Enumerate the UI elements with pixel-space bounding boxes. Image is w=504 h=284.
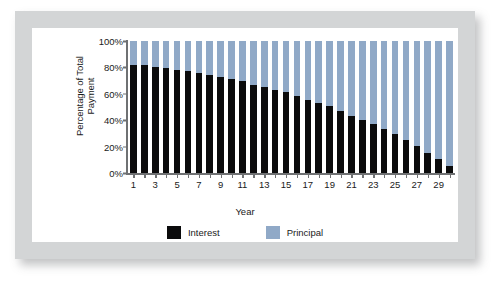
- bar-segment-interest: [217, 77, 224, 173]
- bar-segment-interest: [174, 70, 181, 173]
- bar-stack: [206, 41, 213, 173]
- y-tick-label: 0%: [89, 168, 123, 179]
- bar-segment-interest: [294, 96, 301, 173]
- bar-segment-interest: [424, 153, 431, 173]
- x-tick-label: 15: [281, 179, 292, 190]
- bar-stack: [250, 41, 257, 173]
- x-tick-mark: [406, 173, 407, 178]
- chart-card: Percentage of Total Payment 100%80%60%40…: [32, 28, 458, 242]
- bar-stack: [424, 41, 431, 173]
- bar-segment-interest: [152, 67, 159, 173]
- bar-segment-interest: [381, 129, 388, 173]
- bar-stack: [141, 41, 148, 173]
- x-tick-mark: [199, 173, 200, 178]
- bar-stack: [261, 41, 268, 173]
- x-tick-label: 13: [259, 179, 270, 190]
- bar-segment-interest: [283, 92, 290, 173]
- x-tick-mark: [286, 173, 287, 178]
- x-tick-mark: [297, 173, 298, 178]
- y-tick-mark: [123, 93, 128, 95]
- bar-segment-interest: [359, 120, 366, 173]
- bar-stack: [272, 41, 279, 173]
- bar-segment-interest: [196, 73, 203, 173]
- x-tick-label: 21: [346, 179, 357, 190]
- bar-stack: [130, 41, 137, 173]
- y-tick-label: 60%: [89, 88, 123, 99]
- y-tick-label: 20%: [89, 141, 123, 152]
- bar-stack: [435, 41, 442, 173]
- x-tick-mark: [155, 173, 156, 178]
- bar-stack: [414, 41, 421, 173]
- x-tick-mark: [253, 173, 254, 178]
- chart-frame: Percentage of Total Payment 100%80%60%40…: [15, 11, 475, 259]
- bar-segment-interest: [403, 140, 410, 173]
- x-tick-mark: [373, 173, 374, 178]
- x-tick-mark: [341, 173, 342, 178]
- bar-segment-interest: [163, 68, 170, 173]
- bar-stack: [294, 41, 301, 173]
- bar-stack: [174, 41, 181, 173]
- x-tick-mark: [166, 173, 167, 178]
- bar-segment-interest: [228, 79, 235, 173]
- x-tick-label: 5: [174, 179, 179, 190]
- bar-segment-interest: [370, 124, 377, 173]
- bar-stack: [185, 41, 192, 173]
- bar-segment-interest: [392, 134, 399, 173]
- bar-stack: [381, 41, 388, 173]
- x-tick-mark: [210, 173, 211, 178]
- bar-segment-interest: [326, 106, 333, 173]
- bar-stack: [152, 41, 159, 173]
- bar-segment-interest: [261, 87, 268, 173]
- bar-stack: [370, 41, 377, 173]
- x-tick-label: 7: [196, 179, 201, 190]
- legend-swatch: [266, 226, 280, 239]
- x-tick-mark: [395, 173, 396, 178]
- x-tick-mark: [221, 173, 222, 178]
- bar-segment-interest: [130, 65, 137, 173]
- x-tick-mark: [188, 173, 189, 178]
- chart-legend: InterestPrincipal: [32, 226, 458, 239]
- x-tick-mark: [450, 173, 451, 178]
- legend-item: Interest: [167, 226, 220, 239]
- y-tick-mark: [123, 120, 128, 122]
- bar-segment-interest: [272, 90, 279, 173]
- legend-label: Interest: [188, 227, 220, 238]
- y-tick-label: 40%: [89, 115, 123, 126]
- x-tick-mark: [308, 173, 309, 178]
- x-tick-mark: [351, 173, 352, 178]
- bar-stack: [359, 41, 366, 173]
- bar-stack: [305, 41, 312, 173]
- bar-stack: [239, 41, 246, 173]
- bar-stack: [163, 41, 170, 173]
- x-tick-label: 3: [153, 179, 158, 190]
- legend-item: Principal: [266, 226, 323, 239]
- bar-stack: [315, 41, 322, 173]
- bar-segment-interest: [435, 159, 442, 173]
- y-tick-mark: [123, 67, 128, 69]
- x-tick-label: 27: [412, 179, 423, 190]
- x-tick-mark: [177, 173, 178, 178]
- plot-area: 100%80%60%40%20%0% 135791113151719212325…: [127, 41, 454, 173]
- bar-segment-interest: [206, 75, 213, 173]
- x-tick-mark: [133, 173, 134, 178]
- x-axis-title: Year: [32, 206, 458, 217]
- bar-segment-interest: [315, 103, 322, 173]
- bar-segment-interest: [250, 85, 257, 173]
- bar-segment-interest: [305, 100, 312, 173]
- x-tick-label: 11: [238, 179, 248, 190]
- bar-segment-interest: [337, 111, 344, 173]
- bar-stack: [196, 41, 203, 173]
- bar-segment-interest: [348, 116, 355, 173]
- x-tick-mark: [428, 173, 429, 178]
- x-tick-mark: [330, 173, 331, 178]
- bar-stack: [217, 41, 224, 173]
- bar-segment-interest: [239, 81, 246, 173]
- x-tick-mark: [362, 173, 363, 178]
- x-tick-label: 29: [433, 179, 444, 190]
- y-tick-mark: [123, 146, 128, 148]
- y-tick-mark: [123, 41, 128, 43]
- x-tick-label: 19: [324, 179, 335, 190]
- x-tick-mark: [275, 173, 276, 178]
- x-tick-mark: [144, 173, 145, 178]
- y-tick-mark: [123, 173, 128, 175]
